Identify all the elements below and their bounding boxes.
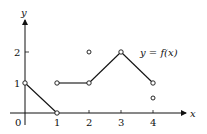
function-label: y = f(x) — [139, 47, 178, 58]
y-axis-label: y — [20, 7, 27, 18]
x-tick-label-4: 4 — [150, 117, 156, 128]
isolated-point-2-2 — [87, 50, 91, 54]
y-tick-label-2: 2 — [14, 47, 20, 58]
x-tick-label-1: 1 — [54, 117, 60, 128]
open-circle-points — [23, 50, 155, 115]
x-tick-label-0: 0 — [15, 117, 21, 128]
x-axis-label: x — [190, 108, 196, 119]
isolated-point-4-half — [151, 96, 155, 100]
y-tick-label-1: 1 — [14, 78, 20, 89]
x-tick-label-2: 2 — [86, 117, 92, 128]
x-tick-label-3: 3 — [118, 117, 124, 128]
function-graph: x y 0 1 2 3 4 1 2 y = f(x) — [0, 0, 207, 134]
